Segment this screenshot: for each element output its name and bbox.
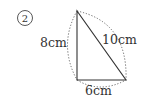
horizontal-side-label: 6cm (85, 83, 112, 98)
problem-number: 2 (18, 11, 33, 26)
triangle-diagram: 2 8cm 10cm 6cm (0, 0, 146, 109)
problem-number-text: 2 (22, 13, 28, 24)
hypotenuse-label: 10cm (102, 32, 137, 47)
vertical-side-arc (68, 11, 78, 80)
vertical-side-label: 8cm (40, 35, 67, 50)
